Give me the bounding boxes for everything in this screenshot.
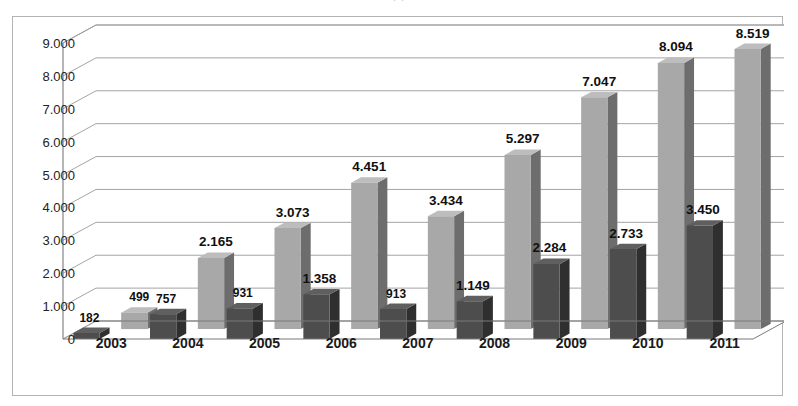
bar-front-dark-2011 bbox=[687, 226, 713, 339]
y-tick-label-5000: 5.000 bbox=[33, 168, 75, 181]
bar-front-light-2011 bbox=[734, 49, 760, 329]
value-label-light-2004: 2.165 bbox=[199, 235, 233, 249]
value-label-light-2009: 7.047 bbox=[582, 74, 616, 88]
x-tick-label-2010: 2010 bbox=[613, 335, 683, 351]
y-tick-label-2000: 2.000 bbox=[33, 267, 75, 280]
y-tick-label-6000: 6.000 bbox=[33, 135, 75, 148]
value-label-light-2008: 5.297 bbox=[506, 132, 540, 146]
bar-front-light-2009 bbox=[581, 97, 607, 329]
bar-front-light-2008 bbox=[504, 155, 530, 329]
y-tick-label-9000: 9.000 bbox=[33, 37, 75, 50]
value-label-light-2006: 4.451 bbox=[352, 160, 386, 174]
bar-front-light-2005 bbox=[274, 228, 300, 329]
bar-side-dark-2008 bbox=[483, 296, 493, 339]
x-tick-label-2011: 2011 bbox=[690, 335, 760, 351]
clipped-title-label: . . bbox=[393, 0, 405, 3]
y-tick-label-8000: 8.000 bbox=[33, 69, 75, 82]
bar-front-dark-2010 bbox=[610, 249, 636, 339]
value-label-dark-2011: 3.450 bbox=[686, 203, 720, 217]
value-label-dark-2003: 182 bbox=[79, 312, 99, 324]
x-tick-label-2003: 2003 bbox=[76, 335, 146, 351]
bar-side-dark-2009 bbox=[560, 258, 570, 339]
chart-frame: 01.0002.0003.0004.0005.0006.0007.0008.00… bbox=[12, 16, 783, 396]
bar-front-light-2006 bbox=[351, 183, 377, 329]
x-tick-label-2009: 2009 bbox=[536, 335, 606, 351]
value-label-dark-2008: 1.149 bbox=[456, 278, 490, 292]
bar-front-dark-2009 bbox=[533, 264, 559, 339]
value-label-dark-2010: 2.733 bbox=[609, 226, 643, 240]
x-tick-label-2005: 2005 bbox=[230, 335, 300, 351]
bar-front-dark-2006 bbox=[303, 294, 329, 339]
value-label-light-2003: 499 bbox=[129, 291, 149, 303]
value-label-dark-2005: 931 bbox=[233, 287, 253, 299]
value-label-dark-2009: 2.284 bbox=[533, 241, 567, 255]
clipped-title-text: . . bbox=[0, 0, 798, 13]
y-tick-label-4000: 4.000 bbox=[33, 201, 75, 214]
bar-front-dark-2008 bbox=[457, 301, 483, 339]
value-label-light-2010: 8.094 bbox=[659, 40, 693, 54]
x-axis-category-labels: 200320042005200620072008200920102011 bbox=[13, 335, 784, 365]
bar-front-light-2004 bbox=[198, 258, 224, 329]
value-label-light-2007: 3.434 bbox=[429, 193, 463, 207]
y-tick-label-3000: 3.000 bbox=[33, 234, 75, 247]
x-tick-label-2008: 2008 bbox=[460, 335, 530, 351]
x-tick-label-2006: 2006 bbox=[306, 335, 376, 351]
chart-screenshot: . . 01.0002.0003.0004.0005.0006.0007.000… bbox=[0, 0, 798, 406]
value-label-light-2011: 8.519 bbox=[736, 26, 770, 40]
value-label-dark-2004: 757 bbox=[156, 293, 176, 305]
bar-side-dark-2010 bbox=[636, 244, 646, 339]
value-label-dark-2006: 1.358 bbox=[303, 271, 337, 285]
y-tick-label-7000: 7.000 bbox=[33, 102, 75, 115]
bar-front-light-2007 bbox=[428, 216, 454, 329]
x-tick-label-2007: 2007 bbox=[383, 335, 453, 351]
bar-front-light-2010 bbox=[658, 63, 684, 329]
x-tick-label-2004: 2004 bbox=[153, 335, 223, 351]
y-tick-label-1000: 1.000 bbox=[33, 300, 75, 313]
value-label-light-2005: 3.073 bbox=[276, 205, 310, 219]
value-label-dark-2007: 913 bbox=[386, 288, 406, 300]
bar-side-dark-2006 bbox=[330, 289, 340, 339]
bar-side-light-2011 bbox=[761, 44, 771, 330]
